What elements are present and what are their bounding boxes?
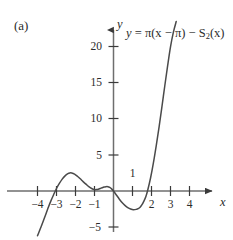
x-tick-label-1: 1 bbox=[124, 168, 142, 180]
y-tick-label-20: 20 bbox=[80, 41, 102, 53]
x-tick-label--4: −4 bbox=[29, 199, 47, 211]
x-tick-label--2: −2 bbox=[67, 199, 85, 211]
y-tick-label--5: −5 bbox=[79, 222, 101, 234]
equation-body: π(x − π) − S bbox=[145, 26, 206, 40]
x-tick-label--3: −3 bbox=[48, 199, 66, 211]
y-tick-label-15: 15 bbox=[80, 77, 102, 89]
equation-tail: (x) bbox=[210, 26, 225, 40]
x-tick-label-2: 2 bbox=[143, 199, 161, 211]
y-axis-label: y bbox=[117, 18, 123, 31]
equation-equals: = bbox=[132, 26, 145, 40]
x-tick-label-4: 4 bbox=[181, 199, 199, 211]
x-axis-label: x bbox=[220, 196, 226, 209]
y-tick-label-10: 10 bbox=[80, 113, 102, 125]
panel-label: (a) bbox=[14, 19, 28, 32]
figure-panel-a: (a) y = π(x − π) − S2(x) y x 20 15 10 5 … bbox=[0, 0, 233, 240]
x-tick-label-3: 3 bbox=[162, 199, 180, 211]
x-tick-label--1: −1 bbox=[86, 199, 104, 211]
curve-equation-annotation: y = π(x − π) − S2(x) bbox=[126, 27, 224, 41]
y-tick-label-5: 5 bbox=[80, 150, 102, 162]
